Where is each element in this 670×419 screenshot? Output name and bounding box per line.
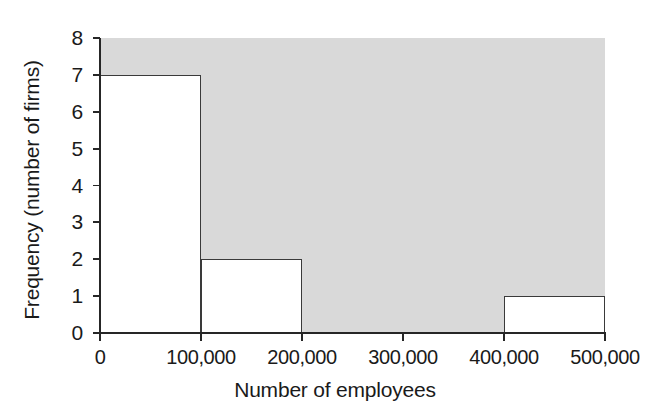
y-tick-label: 6 bbox=[55, 101, 83, 122]
y-tick-mark bbox=[93, 221, 100, 223]
y-tick-mark bbox=[93, 295, 100, 297]
y-tick-label: 7 bbox=[55, 64, 83, 85]
x-tick-mark bbox=[200, 333, 202, 341]
x-tick-mark bbox=[503, 333, 505, 341]
y-tick-mark bbox=[93, 37, 100, 39]
histogram-figure: 012345678 0100,000200,000300,000400,0005… bbox=[0, 0, 670, 419]
y-tick-label: 4 bbox=[55, 175, 83, 196]
plot-area bbox=[100, 38, 605, 333]
y-axis-title: Frequency (number of firms) bbox=[20, 40, 44, 340]
y-tick-label: 5 bbox=[55, 138, 83, 159]
y-tick-mark bbox=[93, 111, 100, 113]
histogram-bar-0 bbox=[100, 75, 201, 333]
y-tick-mark bbox=[93, 148, 100, 150]
y-tick-mark bbox=[93, 74, 100, 76]
y-tick-mark bbox=[93, 185, 100, 187]
x-axis-title: Number of employees bbox=[0, 378, 670, 402]
y-tick-label: 3 bbox=[55, 211, 83, 232]
x-axis-line bbox=[99, 332, 606, 334]
y-tick-label: 8 bbox=[55, 27, 83, 48]
x-tick-label: 500,000 bbox=[545, 347, 665, 367]
y-tick-label: 0 bbox=[55, 322, 83, 343]
y-tick-label: 2 bbox=[55, 248, 83, 269]
histogram-bar-1 bbox=[201, 259, 302, 333]
histogram-bar-4 bbox=[504, 296, 605, 333]
x-tick-mark bbox=[99, 333, 101, 341]
x-tick-mark bbox=[402, 333, 404, 341]
y-tick-label: 1 bbox=[55, 285, 83, 306]
x-tick-mark bbox=[301, 333, 303, 341]
y-tick-mark bbox=[93, 258, 100, 260]
x-tick-mark bbox=[604, 333, 606, 341]
